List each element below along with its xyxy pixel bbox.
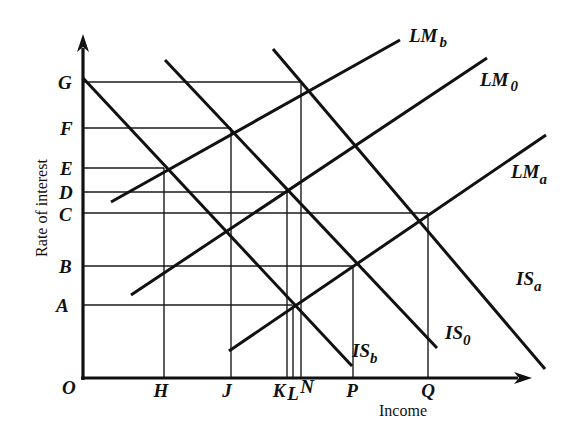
is-b-curve (83, 78, 352, 366)
x-tick-q: Q (421, 380, 435, 401)
x-tick-n: N (299, 376, 315, 397)
x-axis-title: Income (379, 402, 427, 419)
y-tick-c: C (59, 204, 72, 225)
x-tick-h: H (153, 380, 170, 401)
x-tick-k: K (272, 380, 287, 401)
y-tick-e: E (59, 158, 73, 179)
label-is-b: ISb (351, 340, 378, 366)
is-lm-diagram: Rate of interest Income O G F E D C B A … (0, 0, 575, 435)
curve-labels: LMb LM0 LMa ISa IS0 ISb (351, 25, 548, 366)
label-lm-b: LMb (408, 25, 448, 50)
is-a-curve (273, 49, 545, 369)
x-tick-p: P (345, 380, 358, 401)
lm-a-curve (229, 135, 546, 351)
lm-b-curve (111, 40, 400, 202)
y-axis-title: Rate of interest (33, 159, 50, 257)
label-lm-a: LMa (510, 161, 548, 187)
y-tick-d: D (58, 182, 73, 203)
x-tick-labels: H J K L N P Q (153, 376, 436, 404)
y-tick-f: F (59, 118, 73, 139)
x-tick-j: J (221, 380, 232, 401)
y-tick-labels: G F E D C B A (55, 72, 73, 316)
y-tick-a: A (55, 295, 69, 316)
label-is-a: ISa (515, 268, 542, 294)
y-tick-g: G (58, 72, 72, 93)
label-is-0: IS0 (444, 322, 471, 348)
x-tick-l: L (286, 383, 299, 404)
y-tick-b: B (58, 256, 72, 277)
origin-label: O (62, 377, 76, 398)
label-lm-0: LM0 (479, 69, 519, 94)
curves (83, 40, 546, 369)
